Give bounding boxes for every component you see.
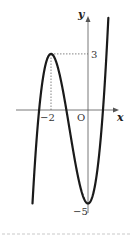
y-tick-label-3: 3 [91,49,97,60]
x-tick-label-minus-2: −2 [40,112,55,123]
function-graph: x y O −2 3 −5 [0,0,134,245]
cubic-curve [33,18,109,204]
y-axis-label: y [77,8,86,21]
y-tick-label-minus-5: −5 [73,206,88,217]
origin-label: O [77,112,85,123]
x-axis-label: x [116,111,124,124]
y-axis-arrow-icon [86,16,91,22]
